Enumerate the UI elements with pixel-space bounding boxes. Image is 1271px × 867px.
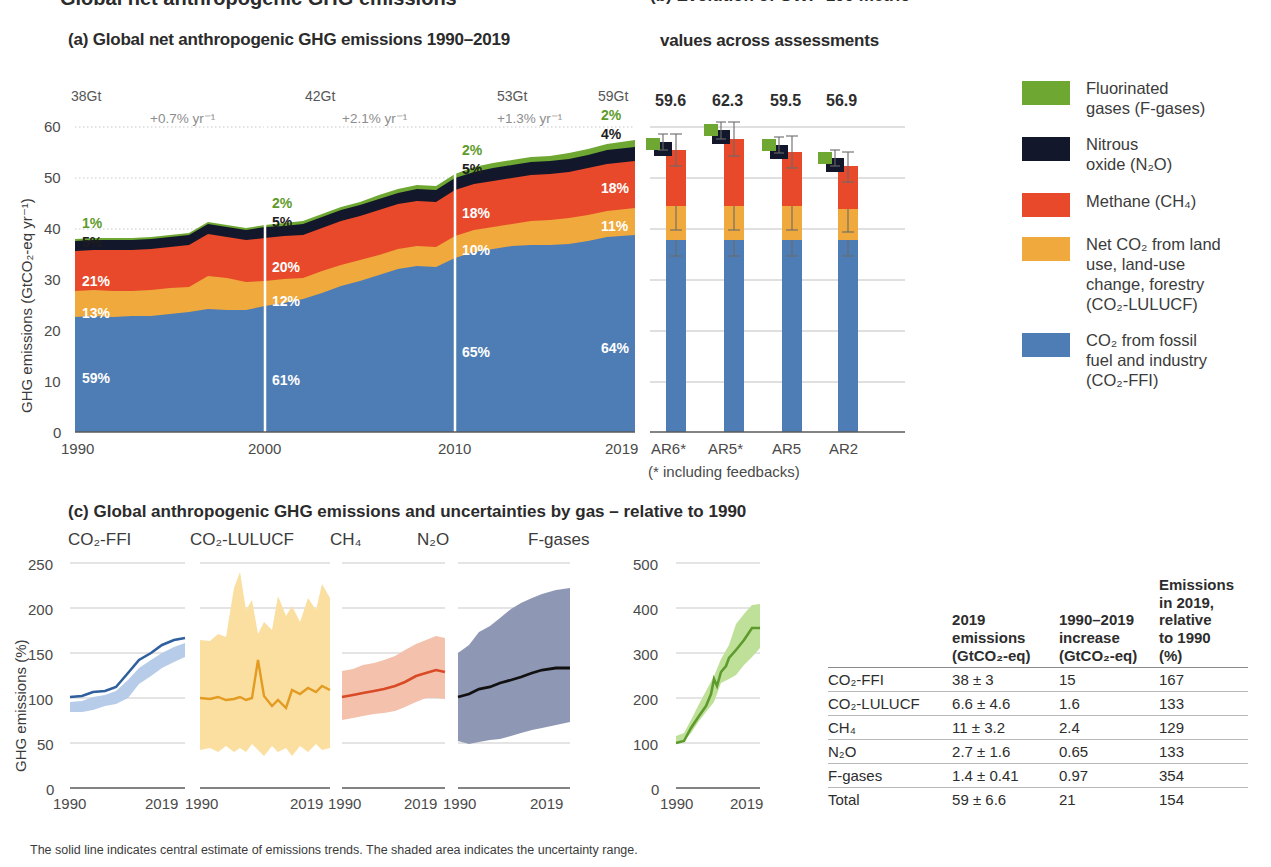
table-cell-emissions: 2.7 ± 1.6: [952, 740, 1059, 764]
table-cell-relative: 129: [1159, 716, 1248, 740]
table-cell-increase: 0.97: [1059, 764, 1159, 788]
legend-label-ch4: Methane (CH₄): [1086, 191, 1196, 211]
panel-c-plots: [0, 0, 760, 830]
panel-b-bar-ar5-ffi: [782, 240, 802, 432]
table-cell-relative: 133: [1159, 740, 1248, 764]
panel-c-xtick-co2lulucf-2019: 2019: [290, 795, 323, 812]
figure-footnote: The solid line indicates central estimat…: [30, 843, 638, 857]
legend-swatch-fgas-icon: [1022, 81, 1070, 105]
table-row: CO₂-LULUCF 6.6 ± 4.6 1.6 133: [828, 692, 1248, 716]
panel-c-band-n2o: [458, 588, 570, 744]
legend-label-lulucf: Net CO₂ from land use, land-use change, …: [1086, 234, 1221, 315]
legend-item-ffi[interactable]: CO₂ from fossil fuel and industry (CO₂-F…: [1022, 330, 1221, 390]
panel-c-band-fgases: [676, 604, 760, 744]
panel-b-bar-ar2-ffi: [838, 240, 858, 432]
table-cell-increase: 21: [1059, 788, 1159, 812]
table-cell-increase: 1.6: [1059, 692, 1159, 716]
panel-b-xtick-ar2: AR2: [829, 440, 858, 457]
legend-item-lulucf[interactable]: Net CO₂ from land use, land-use change, …: [1022, 234, 1221, 315]
table-cell-increase: 0.65: [1059, 740, 1159, 764]
summary-table-wrap: 2019 emissions (GtCO₂-eq) 1990–2019 incr…: [828, 576, 1248, 811]
panel-b-bar-ar5-fgases: [762, 139, 776, 151]
panel-b-bar-group-ar5[interactable]: [762, 136, 802, 432]
table-cell-gas: N₂O: [828, 740, 952, 764]
table-cell-emissions: 38 ± 3: [952, 668, 1059, 692]
table-cell-increase: 15: [1059, 668, 1159, 692]
panel-c-subplot-ch4: [342, 563, 445, 788]
table-header-increase: 1990–2019 increase (GtCO₂-eq): [1059, 576, 1159, 668]
legend-swatch-n2o-icon: [1022, 137, 1070, 161]
panel-c-subplot-n2o: [458, 563, 570, 788]
table-cell-relative: 167: [1159, 668, 1248, 692]
legend-item-n2o[interactable]: Nitrous oxide (N₂O): [1022, 134, 1221, 174]
panel-c-xtick-n2o-2019: 2019: [530, 795, 563, 812]
legend-swatch-lulucf-icon: [1022, 237, 1070, 261]
table-header-gas: [828, 576, 952, 668]
panel-c-subplot-co2ffi: [70, 563, 185, 788]
legend-item-fgases[interactable]: Fluorinated gases (F-gases): [1022, 78, 1221, 118]
table-cell-relative: 354: [1159, 764, 1248, 788]
panel-c-xtick-n2o-1990: 1990: [443, 795, 476, 812]
table-header-row: 2019 emissions (GtCO₂-eq) 1990–2019 incr…: [828, 576, 1248, 668]
panel-c-band-ch4: [342, 636, 445, 720]
legend-swatch-ffi-icon: [1022, 333, 1070, 357]
panel-c-xtick-ch4-2019: 2019: [404, 795, 437, 812]
table-cell-emissions: 11 ± 3.2: [952, 716, 1059, 740]
table-cell-gas: F-gases: [828, 764, 952, 788]
table-row: N₂O 2.7 ± 1.6 0.65 133: [828, 740, 1248, 764]
panel-b-xtick-ar5: AR5: [772, 440, 801, 457]
panel-c-subplot-fgases: [676, 563, 760, 788]
panel-c-xtick-co2ffi-1990: 1990: [53, 795, 86, 812]
panel-b-bar-group-ar2[interactable]: [818, 150, 858, 432]
legend-item-ch4[interactable]: Methane (CH₄): [1022, 191, 1221, 217]
table-cell-emissions: 6.6 ± 4.6: [952, 692, 1059, 716]
table-header-relative: Emissions in 2019, relative to 1990 (%): [1159, 576, 1248, 668]
legend-swatch-ch4-icon: [1022, 193, 1070, 217]
panel-c-xtick-fgases-2019: 2019: [730, 795, 763, 812]
table-cell-emissions: 1.4 ± 0.41: [952, 764, 1059, 788]
table-cell-relative: 154: [1159, 788, 1248, 812]
legend-label-n2o: Nitrous oxide (N₂O): [1086, 134, 1172, 174]
table-row: CO₂-FFI 38 ± 3 15 167: [828, 668, 1248, 692]
table-cell-gas: CO₂-LULUCF: [828, 692, 952, 716]
legend-label-ffi: CO₂ from fossil fuel and industry (CO₂-F…: [1086, 330, 1207, 390]
panel-c-xtick-co2ffi-2019: 2019: [145, 795, 178, 812]
panel-c-xtick-ch4-1990: 1990: [328, 795, 361, 812]
panel-c-xtick-fgases-1990: 1990: [660, 795, 693, 812]
table-header-emissions: 2019 emissions (GtCO₂-eq): [952, 576, 1059, 668]
table-cell-relative: 133: [1159, 692, 1248, 716]
table-cell-increase: 2.4: [1059, 716, 1159, 740]
panel-c-xtick-co2lulucf-1990: 1990: [185, 795, 218, 812]
summary-table: 2019 emissions (GtCO₂-eq) 1990–2019 incr…: [828, 576, 1248, 811]
table-row: CH₄ 11 ± 3.2 2.4 129: [828, 716, 1248, 740]
table-cell-emissions: 59 ± 6.6: [952, 788, 1059, 812]
legend-label-fgases: Fluorinated gases (F-gases): [1086, 78, 1205, 118]
panel-c-subplot-co2lulucf: [200, 563, 330, 788]
table-cell-gas: Total: [828, 788, 952, 812]
table-row: F-gases 1.4 ± 0.41 0.97 354: [828, 764, 1248, 788]
table-cell-gas: CO₂-FFI: [828, 668, 952, 692]
legend: Fluorinated gases (F-gases) Nitrous oxid…: [1022, 78, 1221, 390]
table-cell-gas: CH₄: [828, 716, 952, 740]
table-row: Total 59 ± 6.6 21 154: [828, 788, 1248, 812]
panel-b-bar-ar2-fgases: [818, 152, 832, 164]
panel-c-band-co2lulucf: [200, 572, 330, 756]
